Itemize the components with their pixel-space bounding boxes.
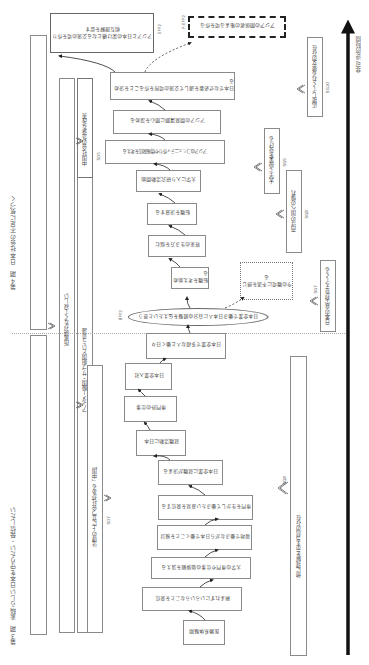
connector-layer — [0, 0, 369, 665]
flow-arrows — [60, 56, 217, 620]
dashed-arrows — [145, 43, 243, 308]
chevron-icons — [48, 85, 318, 501]
